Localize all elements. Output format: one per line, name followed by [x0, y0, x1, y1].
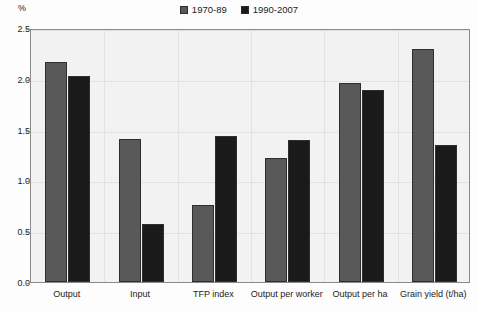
legend-item: 1970-89 [180, 5, 227, 15]
gridline [31, 30, 469, 31]
bar [45, 62, 67, 282]
legend-swatch-icon [180, 6, 188, 14]
bar [215, 136, 237, 282]
bar [362, 90, 384, 282]
bar [412, 49, 434, 282]
category-separator [251, 30, 252, 282]
bar-chart: % 1970-891990-2007 0.00.51.01.52.02.5 Ou… [0, 0, 478, 312]
gridline [31, 233, 469, 234]
category-separator [104, 30, 105, 282]
gridline [31, 182, 469, 183]
bar [288, 140, 310, 282]
bar [339, 83, 361, 282]
y-tick-mark [26, 283, 30, 284]
x-tick-label: TFP index [177, 288, 250, 300]
gridline [31, 132, 469, 133]
x-tick-label: Output per worker [250, 288, 323, 300]
bar [435, 145, 457, 282]
x-tick-label: Input [103, 288, 176, 300]
category-separator [324, 30, 325, 282]
x-axis-labels: OutputInputTFP indexOutput per workerOut… [30, 288, 470, 304]
chart-legend: 1970-891990-2007 [0, 3, 478, 17]
bar [192, 205, 214, 282]
bar [68, 76, 90, 282]
x-tick-label: Output per ha [323, 288, 396, 300]
bar [119, 139, 141, 282]
x-tick-label: Grain yield (t/ha) [397, 288, 470, 300]
category-separator [178, 30, 179, 282]
legend-swatch-icon [241, 6, 249, 14]
bar [142, 224, 164, 282]
gridline [31, 81, 469, 82]
legend-item: 1990-2007 [241, 5, 298, 15]
legend-label: 1970-89 [192, 5, 227, 15]
x-tick-label: Output [30, 288, 103, 300]
bar [265, 158, 287, 282]
category-separator [398, 30, 399, 282]
plot-area [30, 29, 470, 283]
legend-label: 1990-2007 [253, 5, 298, 15]
y-axis: 0.00.51.01.52.02.5 [0, 0, 30, 312]
